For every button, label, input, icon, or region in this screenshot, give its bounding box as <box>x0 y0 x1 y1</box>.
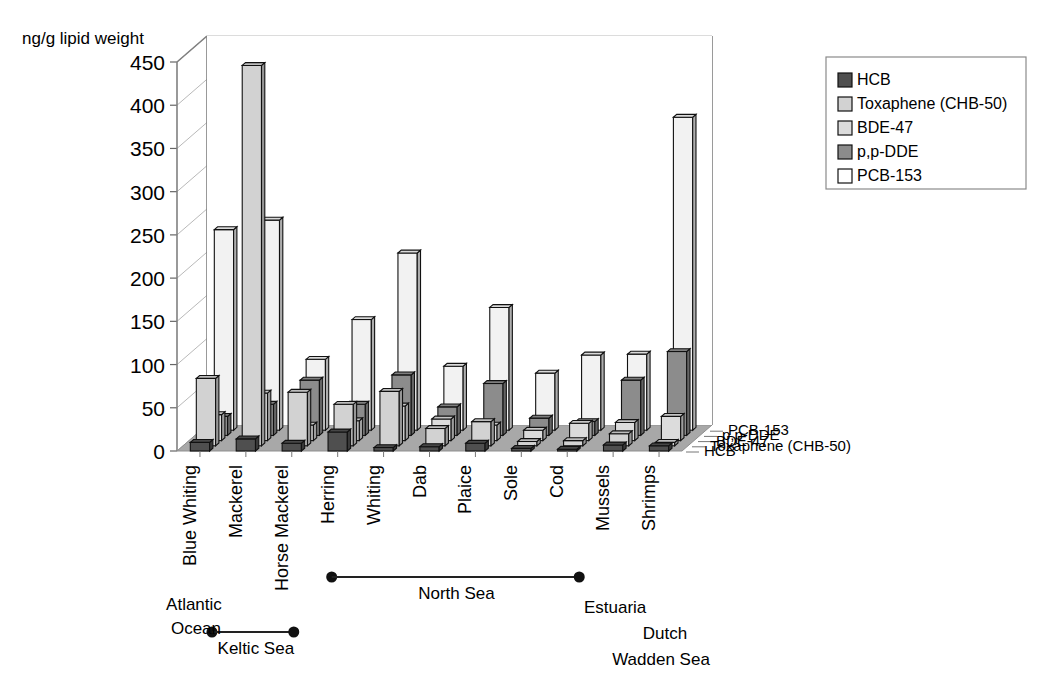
chart-root: 050100150200250300350400450 Blue Whiting… <box>0 0 1064 687</box>
bar-side-face <box>463 363 466 430</box>
bar-top-face <box>380 388 403 391</box>
bar-top-face <box>558 446 581 449</box>
bar-top-face <box>536 370 559 373</box>
bar-top-face <box>603 442 626 445</box>
y-tick-label: 50 <box>142 397 165 420</box>
bar-top-face <box>242 63 265 66</box>
bar-side-face <box>693 114 696 430</box>
legend-swatch <box>838 97 852 111</box>
bar <box>190 439 213 451</box>
bar-front-face <box>564 441 583 446</box>
category-labels: Blue WhitingMackerelHorse MackerelHerrin… <box>180 451 659 591</box>
bar-top-face <box>352 317 375 320</box>
bar-front-face <box>380 391 399 445</box>
bar-side-face <box>405 403 408 440</box>
bar-top-face <box>438 404 461 407</box>
bar <box>282 440 305 451</box>
bar-side-face <box>319 377 322 435</box>
bar-side-face <box>228 414 231 436</box>
bar-top-face <box>564 438 587 441</box>
bar-front-face <box>420 447 439 451</box>
bar-top-face <box>306 356 329 359</box>
bar <box>288 389 311 445</box>
dutch-wadden-sea-label-line1: Dutch <box>643 624 687 643</box>
bar-top-face <box>609 431 632 434</box>
legend-swatch <box>838 169 852 183</box>
bar-side-face <box>681 414 684 441</box>
atlantic-ocean-label-line1: Atlantic <box>166 595 222 614</box>
bar-top-face <box>420 444 443 447</box>
bar-side-face <box>268 390 271 440</box>
top-edge <box>177 36 207 62</box>
bar-top-face <box>627 351 650 354</box>
bar-side-face <box>325 356 328 430</box>
bar-front-face <box>426 429 445 446</box>
bar-side-face <box>307 389 310 445</box>
bar <box>420 444 443 451</box>
depth-axis-label: HCB <box>704 442 736 459</box>
bar-top-face <box>196 376 219 379</box>
bar-top-face <box>472 419 495 422</box>
bar-top-face <box>661 414 684 417</box>
bar <box>512 446 535 451</box>
y-axis-title: ng/g lipid weight <box>22 29 144 48</box>
legend-label: BDE-47 <box>857 119 913 136</box>
bar-top-face <box>426 426 449 429</box>
y-tick-label: 450 <box>130 51 165 74</box>
category-label: Shrimps <box>639 465 659 531</box>
bar-side-face <box>262 63 265 446</box>
atlantic-ocean-label-line2: Ocean <box>171 619 221 638</box>
bar-side-face <box>234 227 237 430</box>
3d-bar-chart: 050100150200250300350400450 Blue Whiting… <box>0 0 1064 687</box>
category-label: Sole <box>501 465 521 501</box>
bar-side-face <box>347 429 350 451</box>
category-label: Mackerel <box>226 465 246 538</box>
bar-top-face <box>282 440 305 443</box>
bar-top-face <box>512 446 535 449</box>
bar-side-face <box>274 401 277 435</box>
bracket-endpoint <box>288 627 299 638</box>
bar-top-face <box>466 440 489 443</box>
category-label: Cod <box>547 465 567 498</box>
bar-front-face <box>661 416 680 440</box>
bar-top-face <box>288 389 311 392</box>
bar-top-face <box>190 439 213 442</box>
bar-side-face <box>491 419 494 446</box>
bar-front-face <box>288 392 307 446</box>
bar <box>236 436 259 451</box>
bar-side-face <box>457 404 460 435</box>
bar-side-face <box>417 250 420 430</box>
bar-side-face <box>371 317 374 431</box>
bar-top-face <box>214 227 237 230</box>
bar-top-face <box>432 416 455 419</box>
bar-side-face <box>365 401 368 435</box>
legend-label: Toxaphene (CHB-50) <box>857 95 1007 112</box>
group-annotations: Keltic SeaAtlanticOceanNorth SeaEstuaria… <box>166 572 710 670</box>
bar <box>196 376 219 446</box>
bar <box>564 438 587 446</box>
bar-top-face <box>300 377 323 380</box>
bar <box>426 426 449 446</box>
bar-side-face <box>451 416 454 440</box>
bar-top-face <box>673 114 696 117</box>
legend: HCBToxaphene (CHB-50)BDE-47p,p-DDEPCB-15… <box>826 57 1026 189</box>
bar <box>466 440 489 451</box>
bar-side-face <box>222 412 225 441</box>
y-tick-label: 400 <box>130 94 165 117</box>
category-label: Blue Whiting <box>180 465 200 566</box>
y-tick-label: 200 <box>130 267 165 290</box>
y-tick-labels: 050100150200250300350400450 <box>130 51 165 463</box>
bar-top-face <box>398 250 421 253</box>
dutch-wadden-sea-label-line2: Wadden Sea <box>612 650 710 669</box>
bar <box>649 443 672 451</box>
bar-front-face <box>190 442 209 451</box>
bar-top-face <box>649 443 672 446</box>
category-label: Horse Mackerel <box>272 465 292 591</box>
category-label: Mussels <box>593 465 613 531</box>
bar <box>374 445 397 451</box>
bar-top-face <box>236 436 259 439</box>
bar <box>518 439 541 446</box>
y-tick-label: 150 <box>130 310 165 333</box>
category-label: Dab <box>410 465 430 498</box>
bar <box>380 388 403 445</box>
